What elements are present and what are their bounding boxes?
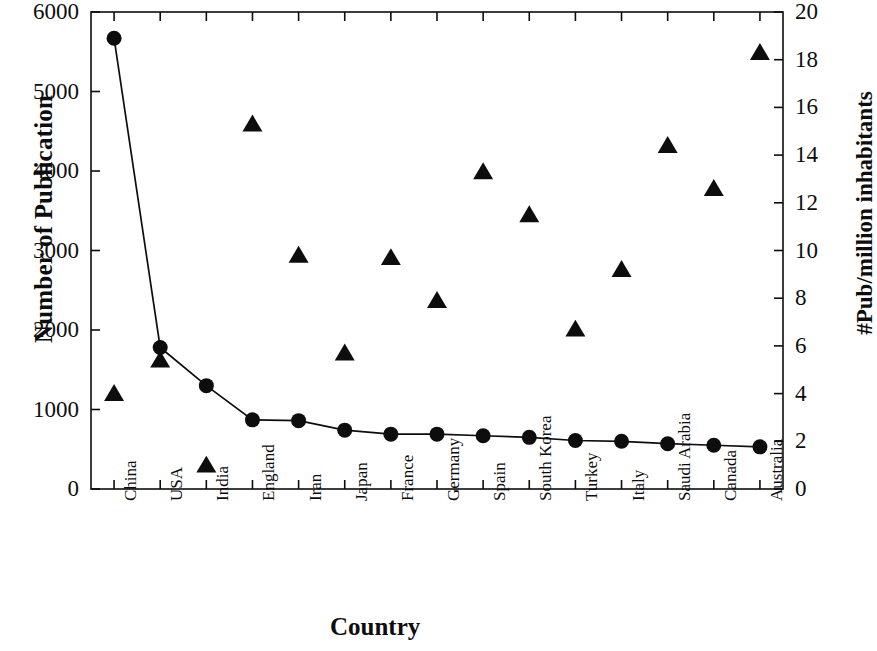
y-axis-right-tick: 18 xyxy=(795,48,845,71)
y-axis-left-tick: 4000 xyxy=(9,159,79,182)
y-axis-right-tick: 14 xyxy=(795,143,845,166)
y-axis-right-title: #Pub/million inhabitants xyxy=(852,48,877,378)
y-axis-right-tick: 20 xyxy=(795,0,845,23)
x-axis-category-label: Germany xyxy=(444,438,464,501)
x-axis-category-label: Turkey xyxy=(582,453,602,502)
y-axis-left-tick: 0 xyxy=(9,477,79,500)
x-axis-category-label: USA xyxy=(167,467,187,501)
y-axis-right-tick: 4 xyxy=(795,382,845,405)
x-axis-category-label: Australia xyxy=(767,439,787,501)
y-axis-right-tick: 12 xyxy=(795,191,845,214)
y-axis-right-tick: 16 xyxy=(795,95,845,118)
x-axis-category-label: China xyxy=(121,460,141,501)
x-axis-category-label: Saudi Arabia xyxy=(675,413,695,501)
y-axis-left-tick: 5000 xyxy=(9,80,79,103)
x-axis-category-label: South Korea xyxy=(536,416,556,501)
x-axis-category-label: India xyxy=(213,466,233,501)
y-axis-right-tick: 0 xyxy=(795,477,845,500)
y-axis-left-tick: 1000 xyxy=(9,398,79,421)
x-axis-category-label: France xyxy=(398,455,418,501)
x-axis-category-label: Italy xyxy=(629,470,649,501)
y-axis-right-tick: 6 xyxy=(795,334,845,357)
x-axis-category-label: Spain xyxy=(490,462,510,501)
y-axis-left-tick: 3000 xyxy=(9,239,79,262)
x-axis-category-label: Canada xyxy=(721,450,741,501)
y-axis-right-tick: 10 xyxy=(795,239,845,262)
y-axis-left-tick: 2000 xyxy=(9,318,79,341)
x-axis-category-label: Japan xyxy=(352,462,372,501)
x-axis-category-label: England xyxy=(259,444,279,501)
x-axis-category-label: Iran xyxy=(306,474,326,501)
x-axis-title: Country xyxy=(330,613,420,641)
y-axis-right-tick: 2 xyxy=(795,429,845,452)
y-axis-left-tick: 6000 xyxy=(9,0,79,23)
y-axis-right-tick: 8 xyxy=(795,286,845,309)
